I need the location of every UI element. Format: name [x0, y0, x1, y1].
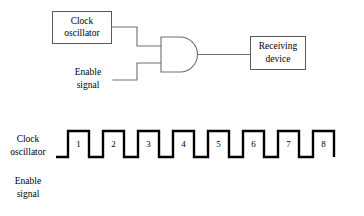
enable-signal-label-line2: signal: [77, 80, 100, 90]
clock-pulse-numbers: 1 2 3 4 5 6 7 8: [76, 139, 326, 149]
receiving-device-label-line1: Receiving: [259, 41, 298, 51]
pulse-number-7: 7: [286, 139, 291, 149]
pulse-number-3: 3: [146, 139, 151, 149]
receiving-device-block: Receiving device: [251, 37, 306, 70]
pulse-number-2: 2: [111, 139, 116, 149]
timing-clock-label-line2: oscillator: [10, 147, 46, 157]
clock-oscillator-block: Clock oscillator: [53, 12, 112, 44]
pulse-number-1: 1: [76, 139, 81, 149]
timing-clock-label-line1: Clock: [17, 134, 40, 144]
figure-canvas: Clock oscillator Receiving device Enable…: [0, 0, 364, 216]
receiving-device-label-line2: device: [266, 54, 291, 64]
wire-enable-to-gate: [113, 63, 161, 80]
circuit-schematic: Clock oscillator Receiving device Enable…: [53, 12, 306, 90]
circuit-timing-diagram: Clock oscillator Receiving device Enable…: [0, 0, 364, 216]
enable-signal-input-label: Enable signal: [75, 67, 101, 90]
timing-clock-label: Clock oscillator: [10, 134, 46, 157]
pulse-number-8: 8: [321, 139, 326, 149]
clock-oscillator-label-line2: oscillator: [64, 28, 100, 38]
clock-waveform-trace: [56, 131, 334, 157]
pulse-number-4: 4: [181, 139, 186, 149]
clock-oscillator-label-line1: Clock: [71, 16, 94, 26]
wire-clock-to-gate: [112, 27, 162, 46]
and-gate-icon: [161, 37, 198, 72]
pulse-number-5: 5: [216, 139, 221, 149]
pulse-number-6: 6: [251, 139, 256, 149]
enable-signal-label-line1: Enable: [75, 67, 101, 77]
timing-enable-label-line2: signal: [17, 189, 40, 199]
timing-enable-label-line1: Enable: [15, 176, 41, 186]
timing-waveform-section: Clock oscillator 1 2 3 4 5 6 7 8 Enable …: [10, 131, 334, 199]
timing-enable-label: Enable signal: [15, 176, 41, 199]
